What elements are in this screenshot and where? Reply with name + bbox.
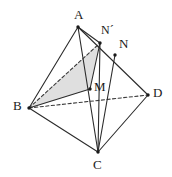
vertex-point-n (113, 53, 116, 56)
vertex-label-a: A (74, 8, 83, 21)
vertex-label-n: N (119, 37, 128, 50)
segment-a-nprime (78, 27, 100, 43)
segment-nprime-c (98, 43, 100, 152)
segment-n-c (98, 55, 115, 152)
edge-c-d (98, 95, 148, 152)
vertex-label-np: N´ (101, 24, 114, 36)
geometry-figure: ABCDMNN´ (0, 0, 172, 177)
vertex-label-b: B (13, 99, 22, 112)
vertex-point-np (98, 41, 101, 44)
vertex-label-c: C (93, 158, 102, 171)
edge-b-c (29, 108, 98, 152)
vertex-point-d (146, 93, 149, 96)
vertex-label-m: M (94, 80, 106, 93)
vertex-label-d: D (153, 86, 162, 99)
vertex-point-m (88, 87, 91, 90)
vertex-point-a (76, 25, 79, 28)
vertex-points-layer (27, 25, 149, 153)
tetrahedron-diagram-svg (0, 0, 172, 177)
vertex-point-b (27, 106, 30, 109)
vertex-point-c (96, 150, 99, 153)
